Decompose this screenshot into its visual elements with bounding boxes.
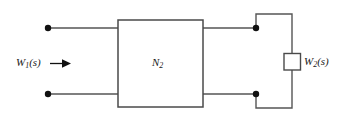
- circuit-schematic-svg: [0, 0, 344, 120]
- load-signal-argument: (s): [317, 55, 329, 67]
- circuit-diagram: W1(s) N2 W2(s): [0, 0, 344, 120]
- load-signal-base: W: [304, 55, 313, 67]
- terminal-dot-input-top: [45, 25, 51, 31]
- wire-load-loop-top: [256, 14, 292, 54]
- wire-load-loop-bottom: [256, 69, 292, 108]
- network-block-label: N2: [152, 57, 163, 70]
- terminal-dot-output-bottom: [253, 91, 259, 97]
- input-signal-label: W1(s): [16, 57, 41, 70]
- terminal-dot-output-top: [253, 25, 259, 31]
- input-signal-base: W: [16, 56, 25, 68]
- input-signal-argument: (s): [29, 56, 41, 68]
- load-block-w2: [284, 54, 301, 71]
- load-block-label: W2(s): [304, 56, 329, 69]
- network-block-subscript: 2: [159, 61, 163, 70]
- input-direction-arrow-icon: [50, 59, 71, 68]
- terminal-dot-input-bottom: [45, 91, 51, 97]
